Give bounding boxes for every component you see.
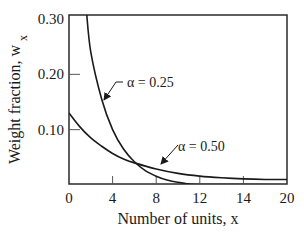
- x-axis-title: Number of units, x: [118, 210, 239, 227]
- y-axis-title-subscript: x: [16, 35, 30, 41]
- chart: 0481214200.100.200.30 α = 0.25α = 0.50 N…: [0, 0, 304, 234]
- annotation-alpha-050: α = 0.50: [178, 139, 225, 154]
- annotation-leader-alpha-050: [161, 145, 178, 164]
- x-tick-label: 8: [152, 190, 160, 206]
- tick-marks: [69, 74, 243, 184]
- tick-labels: 0481214200.100.200.30: [38, 11, 295, 206]
- x-tick-label: 4: [109, 190, 117, 206]
- y-axis-title-main: Weight fraction, w: [6, 41, 24, 164]
- y-axis-title: Weight fraction, w x: [6, 35, 30, 164]
- x-tick-label: 12: [192, 190, 207, 206]
- annotation-leader-alpha-025: [104, 82, 123, 100]
- series-curves: [69, 11, 287, 185]
- annotation-alpha-025: α = 0.25: [127, 75, 174, 90]
- x-tick-label: 0: [65, 190, 73, 206]
- curve-alpha-025: [86, 11, 287, 185]
- x-tick-label: 14: [236, 190, 252, 206]
- y-tick-label: 0.20: [38, 66, 64, 82]
- y-tick-label: 0.30: [38, 11, 64, 27]
- x-tick-label: 20: [280, 190, 295, 206]
- annotations: α = 0.25α = 0.50: [104, 75, 225, 164]
- y-tick-label: 0.10: [38, 122, 64, 138]
